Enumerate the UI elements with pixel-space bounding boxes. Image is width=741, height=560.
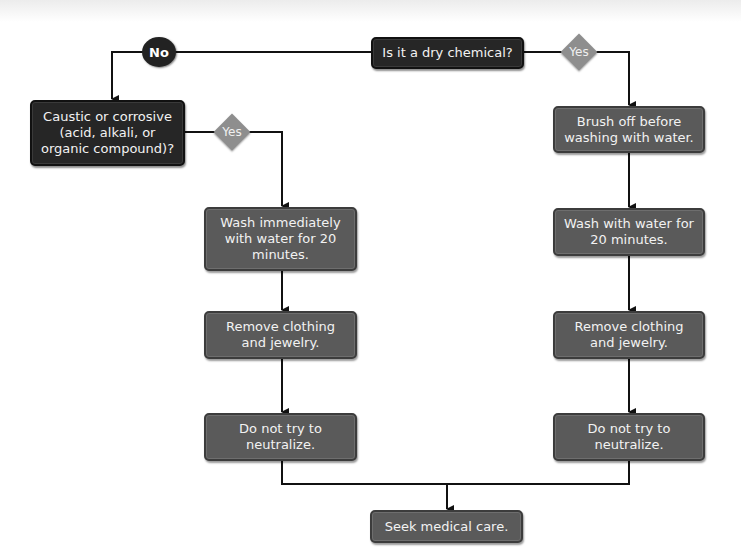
right-step-neutralize: Do not try to neutralize.: [553, 413, 705, 461]
yes-diamond-dry: Yes: [560, 33, 598, 71]
right-step-wash: Wash with water for 20 minutes.: [553, 208, 705, 256]
left-step-remove-label: Remove clothing and jewelry.: [212, 319, 349, 351]
yes-label-dry: Yes: [560, 33, 598, 71]
right-step-remove: Remove clothing and jewelry.: [553, 311, 705, 359]
yes-label-caustic: Yes: [213, 113, 251, 151]
left-step-wash: Wash immediately with water for 20 minut…: [204, 207, 357, 271]
decision-dry-chemical-label: Is it a dry chemical?: [382, 45, 512, 61]
final-step-seek-care: Seek medical care.: [370, 510, 523, 543]
decision-caustic: Caustic or corrosive (acid, alkali, or o…: [30, 100, 185, 166]
decision-dry-chemical: Is it a dry chemical?: [371, 37, 524, 69]
left-step-neutralize: Do not try to neutralize.: [204, 413, 357, 461]
right-step-neutralize-label: Do not try to neutralize.: [561, 421, 697, 453]
final-step-label: Seek medical care.: [385, 519, 509, 535]
no-label: No: [149, 45, 169, 60]
right-step-remove-label: Remove clothing and jewelry.: [561, 319, 697, 351]
decision-caustic-label: Caustic or corrosive (acid, alkali, or o…: [38, 109, 177, 157]
left-step-wash-label: Wash immediately with water for 20 minut…: [212, 215, 349, 263]
right-step-brush-label: Brush off before washing with water.: [561, 114, 697, 146]
left-step-remove: Remove clothing and jewelry.: [204, 311, 357, 359]
yes-diamond-caustic: Yes: [213, 113, 251, 151]
right-step-wash-label: Wash with water for 20 minutes.: [561, 216, 697, 248]
no-branch-badge: No: [142, 37, 176, 67]
left-step-neutralize-label: Do not try to neutralize.: [212, 421, 349, 453]
right-step-brush: Brush off before washing with water.: [553, 106, 705, 153]
connector-lines: [0, 0, 741, 560]
